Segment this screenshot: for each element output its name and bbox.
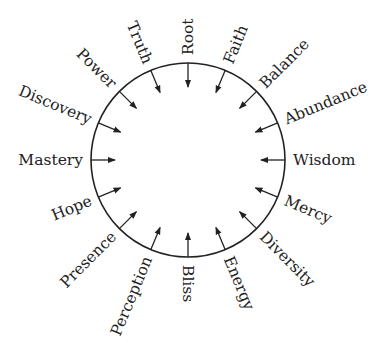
arrow-balance	[240, 91, 257, 108]
radial-wheel-diagram: RootFaithBalanceAbundanceWisdomMercyDive…	[0, 0, 379, 343]
label-energy: Energy	[220, 254, 258, 313]
arrow-diversity	[240, 212, 257, 229]
arrow-perception	[151, 227, 160, 249]
arrow-group	[91, 63, 285, 257]
label-wisdom: Wisdom	[293, 151, 356, 169]
arrow-mercy	[255, 188, 277, 197]
label-group: RootFaithBalanceAbundanceWisdomMercyDive…	[16, 18, 370, 339]
label-hope: Hope	[49, 192, 95, 225]
label-mercy: Mercy	[282, 192, 335, 228]
label-bliss: Bliss	[179, 265, 197, 302]
arrow-abundance	[255, 123, 277, 132]
arrow-faith	[216, 70, 225, 92]
arrow-energy	[216, 227, 225, 249]
label-diversity: Diversity	[256, 228, 319, 291]
label-presence: Presence	[56, 228, 120, 292]
arrow-presence	[119, 212, 136, 229]
label-balance: Balance	[256, 35, 313, 92]
arrow-hope	[98, 188, 120, 197]
arrow-power	[119, 91, 136, 108]
arrow-truth	[151, 70, 160, 92]
arrow-discovery	[98, 123, 120, 132]
label-discovery: Discovery	[16, 82, 95, 128]
label-root: Root	[179, 18, 197, 55]
label-mastery: Mastery	[18, 151, 83, 169]
label-faith: Faith	[220, 22, 252, 66]
label-truth: Truth	[123, 19, 156, 67]
label-power: Power	[73, 45, 121, 93]
label-abundance: Abundance	[281, 78, 370, 129]
label-perception: Perception	[107, 254, 156, 339]
